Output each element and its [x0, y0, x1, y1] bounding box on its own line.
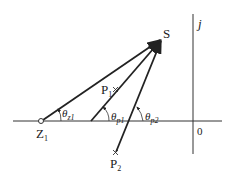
zero-marker-z1 [39, 119, 44, 124]
angle-label-z1: θz1 [62, 108, 75, 122]
angle-arc-z1 [58, 109, 61, 121]
angle-arc-p1 [103, 107, 109, 121]
point-label-p1: P1 [101, 83, 112, 99]
pole-marker-p2 [113, 150, 118, 155]
point-label-z1: Z1 [36, 127, 48, 143]
imag-axis-label: j [198, 17, 202, 30]
point-label-s: S [163, 27, 170, 40]
angle-label-p1: θp1 [111, 111, 124, 125]
origin-label: 0 [197, 126, 203, 137]
angle-arc-p2 [137, 107, 143, 121]
angle-label-p2: θp2 [145, 111, 158, 125]
vector-p2-s [116, 41, 161, 152]
point-label-p2: P2 [110, 157, 121, 173]
